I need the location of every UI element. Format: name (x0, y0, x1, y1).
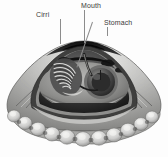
leader-line-stomach (107, 27, 108, 36)
label-stomach: Stomach (104, 19, 132, 27)
label-mouth: Mouth (81, 2, 101, 10)
leader-line-cirri (60, 19, 61, 44)
leader-line-stomach-pointer (100, 70, 101, 80)
leader-line-mouth (84, 10, 85, 43)
label-cirri: Cirri (36, 11, 49, 19)
anatomy-figure: Cirri Mouth Stomach (0, 0, 168, 157)
